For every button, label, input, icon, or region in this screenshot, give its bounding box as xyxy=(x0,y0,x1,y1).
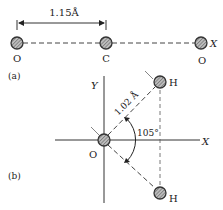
co2-molecule: 1.15Å O C O X (a) xyxy=(8,7,218,81)
extension-tick xyxy=(145,71,153,79)
atom-label: O xyxy=(89,149,97,160)
angle-label: 105° xyxy=(137,128,159,138)
x-axis-label: X xyxy=(201,136,210,147)
part-label: (b) xyxy=(8,171,21,181)
oxygen-atom xyxy=(98,134,110,146)
hydrogen-atom xyxy=(154,76,166,88)
carbon-atom xyxy=(100,37,112,49)
bond-length-label: 1.15Å xyxy=(49,7,79,18)
y-axis-label: Y xyxy=(91,80,99,91)
hydrogen-atom xyxy=(154,187,166,199)
oxygen-atom xyxy=(11,37,23,49)
bond-length-label: 1.02 Å xyxy=(112,88,141,117)
molecule-diagram: 1.15Å O C O X (a) Y X 105° xyxy=(0,0,223,210)
atom-label: C xyxy=(102,53,110,64)
atom-label: H xyxy=(169,77,178,88)
oxygen-atom xyxy=(195,37,207,49)
atom-label: H xyxy=(169,193,178,204)
part-label: (a) xyxy=(8,71,20,81)
atom-label: O xyxy=(198,55,206,66)
extension-tick xyxy=(91,127,99,135)
oh-bond-lower xyxy=(108,145,155,188)
water-molecule: Y X 105° 1.02 Å O H H (b) xyxy=(8,71,210,204)
atom-label: O xyxy=(13,53,21,64)
x-axis-label: X xyxy=(209,38,218,49)
